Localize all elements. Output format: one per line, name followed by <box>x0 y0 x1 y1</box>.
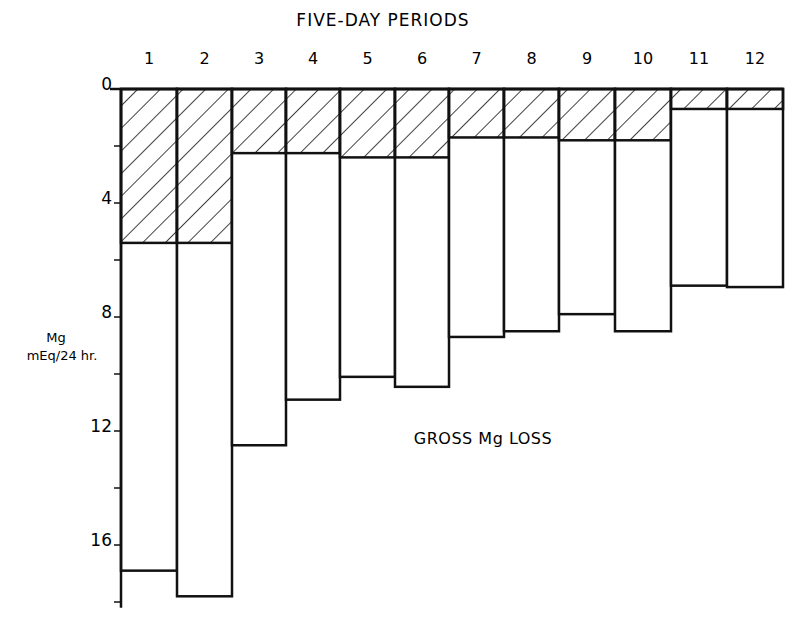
bar-period-5 <box>340 89 395 377</box>
bar-period-6 <box>395 89 449 387</box>
bars <box>121 89 783 596</box>
bar-period-11 <box>671 89 727 286</box>
x-category-label: 8 <box>526 49 536 68</box>
bar-period-7 <box>449 89 504 337</box>
x-category-label: 6 <box>417 49 427 68</box>
hatched-segment <box>121 89 177 243</box>
bar-period-10 <box>615 89 671 331</box>
bar-period-12 <box>727 89 783 287</box>
chart-title: FIVE-DAY PERIODS <box>296 10 469 30</box>
x-category-label: 10 <box>633 49 653 68</box>
gross-loss-annotation: GROSS Mg LOSS <box>414 429 552 448</box>
bar-period-4 <box>286 89 340 400</box>
hatched-segment <box>340 89 395 157</box>
gross-loss-bar <box>671 89 727 286</box>
bar-period-2 <box>177 89 232 596</box>
chart-canvas: FIVE-DAY PERIODS 123456789101112 0481216… <box>0 0 796 627</box>
x-category-label: 7 <box>471 49 481 68</box>
gross-loss-bar <box>727 89 783 287</box>
hatched-segment <box>232 89 286 153</box>
hatched-segment <box>559 89 615 140</box>
y-axis-label-line2: mEq/24 hr. <box>27 348 98 363</box>
y-axis-label-line1: Mg <box>46 330 65 345</box>
y-tick-label: 8 <box>101 302 112 322</box>
x-category-label: 1 <box>144 49 154 68</box>
hatched-segment <box>286 89 340 153</box>
y-tick-label: 16 <box>90 530 112 550</box>
bar-period-9 <box>559 89 615 314</box>
x-category-labels: 123456789101112 <box>144 49 765 68</box>
hatched-segment <box>727 89 783 109</box>
x-category-label: 9 <box>582 49 592 68</box>
bar-period-1 <box>121 89 177 571</box>
y-tick-label: 4 <box>101 188 112 208</box>
hatched-segment <box>671 89 727 109</box>
bar-period-3 <box>232 89 286 445</box>
x-category-label: 3 <box>254 49 264 68</box>
hatched-segment <box>395 89 449 157</box>
hatched-segment <box>615 89 671 140</box>
hatched-segment <box>449 89 504 137</box>
x-category-label: 4 <box>308 49 318 68</box>
hatched-segment <box>177 89 232 243</box>
x-category-label: 12 <box>745 49 765 68</box>
hatched-segment <box>504 89 559 137</box>
y-tick-label: 0 <box>101 74 112 94</box>
bar-period-8 <box>504 89 559 331</box>
x-category-label: 5 <box>362 49 372 68</box>
x-category-label: 11 <box>689 49 709 68</box>
x-category-label: 2 <box>199 49 209 68</box>
y-tick-label: 12 <box>90 416 112 436</box>
